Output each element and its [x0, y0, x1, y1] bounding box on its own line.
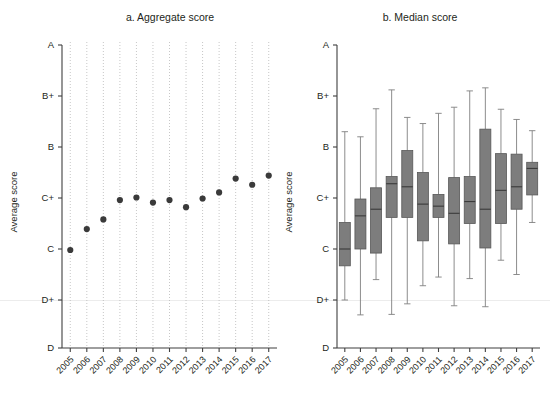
- y-tick-label: C+: [317, 192, 330, 203]
- y-tick-label: A: [48, 39, 55, 50]
- data-point: [249, 182, 255, 188]
- data-point: [166, 197, 172, 203]
- panel-a-y-axis-title: Average score: [8, 171, 19, 232]
- y-tick-label: C: [47, 243, 54, 254]
- y-tick-label: B: [323, 141, 329, 152]
- data-point: [216, 189, 222, 195]
- data-point: [183, 204, 189, 210]
- data-point: [117, 197, 123, 203]
- y-tick-label: D: [322, 342, 329, 353]
- panel-b-title: b. Median score: [383, 11, 458, 23]
- data-point: [133, 194, 139, 200]
- y-tick-label: C+: [42, 192, 55, 203]
- figure-canvas: a. Aggregate score Average score AB+BC+C…: [0, 0, 550, 394]
- panel-a-title: a. Aggregate score: [126, 11, 214, 23]
- y-tick-label: A: [323, 39, 330, 50]
- data-point: [67, 247, 73, 253]
- data-point: [84, 226, 90, 232]
- data-point: [233, 176, 239, 182]
- data-point: [100, 216, 106, 222]
- y-tick-label: B+: [317, 90, 329, 101]
- y-tick-label: D+: [42, 294, 55, 305]
- y-tick-label: C: [322, 243, 329, 254]
- y-tick-label: D+: [317, 294, 330, 305]
- y-tick-label: B+: [42, 90, 54, 101]
- y-tick-label: D: [47, 342, 54, 353]
- data-point: [266, 172, 272, 178]
- data-point: [150, 199, 156, 205]
- panel-b-y-axis-title: Average score: [283, 171, 294, 232]
- y-tick-label: B: [48, 141, 54, 152]
- data-point: [199, 195, 205, 201]
